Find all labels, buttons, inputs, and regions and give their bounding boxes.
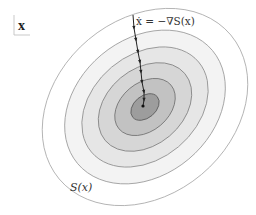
minimum-point: [141, 104, 144, 107]
gradient-flow-diagram: x ẋ = −∇S(x) S(x): [0, 0, 256, 215]
surface-label: S(x): [70, 181, 92, 194]
contour-levels: [3, 0, 256, 215]
variable-label: x: [18, 18, 25, 33]
variable-box: x: [14, 15, 30, 35]
flow-equation-label: ẋ = −∇S(x): [136, 15, 195, 27]
